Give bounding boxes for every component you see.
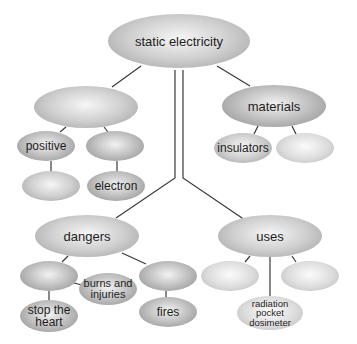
node-fires: fires	[139, 297, 197, 327]
node-electron: electron	[87, 171, 145, 201]
node-posChild	[22, 171, 80, 201]
edge-branchA-to-positive	[60, 127, 66, 132]
node-positive: positive	[17, 131, 75, 161]
node-label: positive	[26, 140, 67, 152]
node-matB	[276, 133, 334, 163]
node-dangers: dangers	[35, 215, 139, 257]
node-branchA	[34, 86, 138, 128]
edge-static-to-branchA	[112, 66, 141, 87]
node-use3	[281, 261, 339, 291]
node-insulators: insulators	[214, 133, 272, 163]
node-burns: burns and injuries	[79, 273, 137, 305]
edge-uses-to-use1	[245, 256, 250, 262]
node-label: dangers	[64, 230, 111, 243]
node-stopheart: stop the heart	[20, 300, 78, 332]
node-label: uses	[256, 230, 283, 243]
edge-static-to-materials	[217, 66, 250, 86]
edge-materials-to-insulators	[254, 126, 258, 134]
node-uses: uses	[218, 215, 322, 257]
node-label: fires	[157, 306, 180, 318]
node-materials: materials	[222, 85, 326, 127]
edge-dangers-to-danger3	[122, 253, 146, 264]
node-label: materials	[248, 100, 301, 113]
node-use1	[201, 261, 259, 291]
node-label: insulators	[217, 142, 268, 154]
node-dosimeter: radiation pocket dosimeter	[237, 296, 303, 330]
node-label: burns and injuries	[82, 278, 134, 300]
node-label: radiation pocket dosimeter	[244, 299, 296, 328]
node-danger1	[20, 261, 78, 291]
concept-map-canvas: static electricitymaterialspositiveinsul…	[0, 0, 357, 344]
node-label: stop the heart	[23, 304, 75, 328]
edge-dangers-to-danger1	[62, 256, 68, 262]
node-label: electron	[95, 180, 138, 192]
node-danger3	[139, 261, 197, 291]
edge-uses-to-use3	[292, 256, 296, 262]
node-branchA2	[86, 131, 144, 161]
node-static: static electricity	[108, 14, 250, 68]
node-label: static electricity	[135, 35, 223, 48]
